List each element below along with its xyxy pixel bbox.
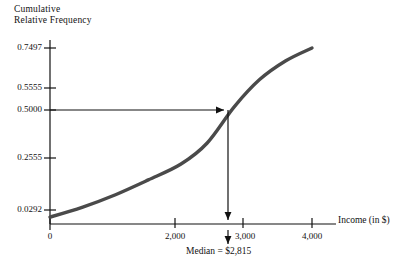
y-axis-title-line2: Relative Frequency (14, 15, 92, 26)
y-tick-label-4: 0.0292 (2, 204, 42, 214)
y-tick-label-2: 0.5000 (2, 104, 42, 114)
x-axis-title: Income (in $) (338, 215, 390, 226)
ogive-curve (50, 48, 312, 217)
y-axis-title: Cumulative Relative Frequency (14, 4, 92, 26)
y-tick-label-0: 0.7497 (2, 42, 42, 52)
y-tick-label-1: 0.5555 (2, 82, 42, 92)
x-tick-label-2: 3,000 (223, 231, 267, 241)
cumulative-frequency-chart: Cumulative Relative Frequency 0.7497 0.5… (0, 0, 408, 271)
median-annotation-label: Median = $2,815 (186, 246, 251, 257)
y-tick-label-3: 0.2555 (2, 152, 42, 162)
x-tick-label-1: 2,000 (153, 231, 197, 241)
x-tick-label-3: 4,000 (290, 231, 334, 241)
x-tick-label-0: 0 (28, 231, 72, 241)
y-axis-title-line1: Cumulative (14, 4, 92, 15)
